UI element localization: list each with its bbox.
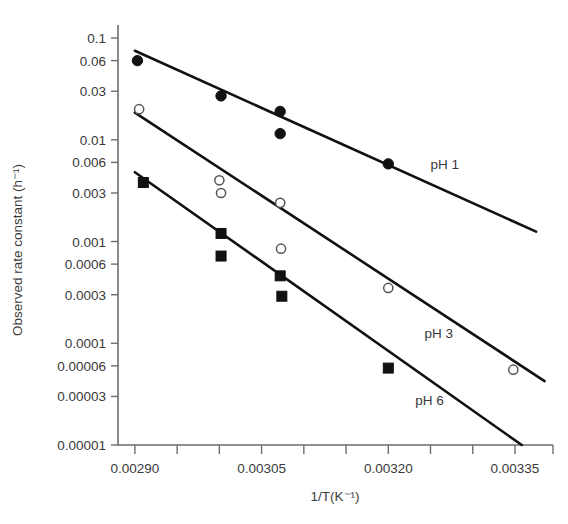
y-tick-label: 0.00003	[57, 389, 106, 404]
series-label-ph-3: pH 3	[425, 326, 454, 341]
data-point	[276, 244, 285, 253]
series-layer	[132, 51, 544, 445]
data-point	[383, 363, 393, 373]
series-ph-6	[135, 172, 522, 445]
data-point	[135, 105, 144, 114]
y-tick-label: 0.0006	[65, 257, 106, 272]
y-tick-label: 0.006	[72, 155, 106, 170]
series-ph-1	[132, 51, 536, 232]
fit-line	[135, 113, 545, 381]
data-point	[216, 251, 226, 261]
data-point	[276, 198, 285, 207]
series-label-ph-1: pH 1	[431, 157, 460, 172]
y-tick-label: 0.001	[72, 235, 106, 250]
data-point	[509, 365, 518, 374]
y-tick-label: 0.06	[80, 54, 106, 69]
y-tick-label: 0.00001	[57, 438, 106, 453]
x-tick-label: 0.00290	[110, 461, 159, 476]
y-tick-label: 0.0001	[65, 336, 106, 351]
axes-layer: 0.10.060.030.010.0060.0030.0010.00060.00…	[57, 25, 553, 476]
plot-canvas: 0.10.060.030.010.0060.0030.0010.00060.00…	[0, 0, 568, 524]
data-point	[277, 291, 287, 301]
data-point	[275, 271, 285, 281]
x-tick-label: 0.00320	[364, 461, 413, 476]
x-axis-title: 1/T(K⁻¹)	[311, 489, 360, 504]
arrhenius-plot: 0.10.060.030.010.0060.0030.0010.00060.00…	[0, 0, 568, 524]
y-axis-title: Observed rate constant (h⁻¹)	[10, 164, 25, 336]
data-point	[215, 176, 224, 185]
y-tick-label: 0.03	[80, 84, 106, 99]
data-point	[275, 128, 285, 138]
y-tick-label: 0.003	[72, 186, 106, 201]
data-point	[384, 283, 393, 292]
x-tick-label: 0.00335	[491, 461, 540, 476]
data-point	[275, 106, 285, 116]
data-point	[216, 91, 226, 101]
y-tick-label: 0.0003	[65, 288, 106, 303]
series-label-ph-6: pH 6	[415, 393, 444, 408]
data-point	[216, 188, 225, 197]
fit-line	[135, 172, 522, 445]
data-point	[132, 55, 142, 65]
fit-line	[135, 51, 536, 232]
y-tick-label: 0.1	[87, 31, 106, 46]
data-point	[383, 159, 393, 169]
series-ph-3	[135, 105, 545, 382]
x-tick-label: 0.00305	[237, 461, 286, 476]
y-tick-label: 0.00006	[57, 359, 106, 374]
data-point	[216, 228, 226, 238]
y-tick-label: 0.01	[80, 133, 106, 148]
data-point	[138, 178, 148, 188]
